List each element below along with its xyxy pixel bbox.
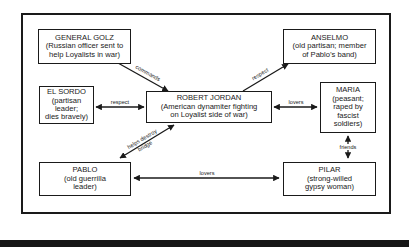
edge-label-lovers-pablo: lovers (192, 170, 222, 176)
node-desc: help Loyalists in war) (49, 51, 120, 59)
node-desc: dies bravely) (45, 113, 88, 121)
node-desc: on Loyalist side of war) (170, 111, 248, 119)
node-robert-jordan: ROBERT JORDAN (American dynamiter fighti… (146, 91, 272, 123)
node-desc: gypsy woman) (305, 183, 354, 191)
edge-label-respect-elsordo: respect (105, 99, 135, 105)
node-desc: of Pablo’s band) (302, 51, 357, 59)
node-general-golz: GENERAL GOLZ (Russian officer sent to he… (38, 29, 131, 64)
node-anselmo: ANSELMO (old partisan; member of Pablo’s… (283, 29, 376, 64)
edge-label-friends: friends (334, 144, 362, 150)
node-desc: soldiers) (334, 120, 363, 128)
bottom-edge-band (0, 240, 409, 247)
node-el-sordo: EL SORDO (partisan leader; dies bravely) (39, 86, 94, 124)
edge-label-lovers-maria: lovers (282, 99, 310, 105)
node-pilar: PILAR (strong-willed gypsy woman) (283, 162, 376, 196)
node-desc: leader) (73, 183, 97, 191)
node-pablo: PABLO (old guerrilla leader) (39, 162, 131, 196)
node-maria: MARIA (peasant; raped by fascist soldier… (320, 82, 376, 133)
